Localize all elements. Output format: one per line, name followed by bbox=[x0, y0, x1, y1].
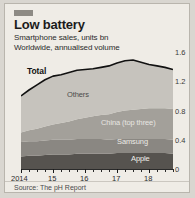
y-axis-label: 1.6 bbox=[175, 48, 185, 57]
x-axis-tick-major bbox=[117, 169, 118, 173]
chart-subtitle-line-1: Smartphone sales, units bn bbox=[14, 33, 108, 42]
series-label-others: Others bbox=[67, 90, 89, 99]
x-axis-tick-minor bbox=[125, 169, 126, 172]
x-axis-tick-minor bbox=[141, 169, 142, 172]
x-axis-line bbox=[21, 169, 173, 170]
y-axis-label: 0.4 bbox=[175, 136, 185, 145]
x-axis-tick-minor bbox=[93, 169, 94, 172]
area-band-apple bbox=[21, 153, 173, 169]
x-axis-tick-minor bbox=[173, 169, 174, 172]
x-axis-tick-minor bbox=[157, 169, 158, 172]
series-label-china: China (top three) bbox=[101, 118, 156, 127]
x-axis-tick-major bbox=[53, 169, 54, 173]
y-axis-label: 0 bbox=[175, 165, 179, 174]
x-axis-tick-minor bbox=[165, 169, 166, 172]
x-axis-tick-minor bbox=[61, 169, 62, 172]
y-axis-label: 0.8 bbox=[175, 107, 185, 116]
x-axis-tick-major bbox=[21, 169, 22, 173]
brand-tag-mark-icon bbox=[14, 10, 33, 16]
series-label-samsung: Samsung bbox=[117, 137, 148, 146]
x-axis-tick-minor bbox=[77, 169, 78, 172]
chart-card: Low battery Smartphone sales, units bn W… bbox=[4, 3, 190, 193]
x-axis-tick-minor bbox=[69, 169, 70, 172]
x-axis-tick-minor bbox=[37, 169, 38, 172]
series-label-total: Total bbox=[27, 66, 46, 76]
x-axis-tick-minor bbox=[29, 169, 30, 172]
x-axis-tick-major bbox=[85, 169, 86, 173]
page-title: Low battery bbox=[14, 18, 85, 32]
series-label-apple: Apple bbox=[131, 154, 150, 163]
chart-subtitle-line-2: Worldwide, annualised volume bbox=[14, 43, 120, 52]
footer-divider bbox=[5, 181, 190, 182]
x-axis-tick-major bbox=[149, 169, 150, 173]
y-axis-label: 1.2 bbox=[175, 77, 185, 86]
source-note: Source: The pH Report bbox=[14, 184, 86, 191]
x-axis-tick-minor bbox=[109, 169, 110, 172]
x-axis-tick-minor bbox=[101, 169, 102, 172]
x-axis-tick-minor bbox=[133, 169, 134, 172]
x-axis-tick-minor bbox=[45, 169, 46, 172]
